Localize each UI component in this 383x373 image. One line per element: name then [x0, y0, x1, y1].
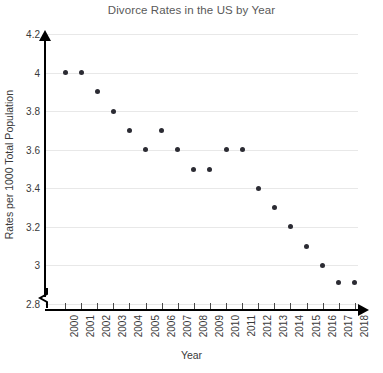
- data-point: [224, 147, 229, 152]
- data-point: [191, 167, 196, 172]
- x-axis-tick-label: 2002: [101, 315, 112, 337]
- y-axis-tick-label: 3: [34, 260, 40, 271]
- x-axis-tick: [355, 303, 356, 309]
- y-axis-title: Rates per 1000 Total Population: [3, 90, 15, 239]
- x-axis-tick: [307, 303, 308, 309]
- data-point: [159, 128, 164, 133]
- x-axis-tick: [113, 303, 114, 309]
- data-point: [79, 70, 84, 75]
- x-axis-tick-label: 2016: [327, 315, 338, 337]
- gridline: [45, 265, 358, 266]
- x-axis-tick: [65, 303, 66, 309]
- y-axis-tick-label: 4.2: [26, 29, 40, 40]
- data-point: [320, 263, 325, 268]
- data-point: [63, 70, 68, 75]
- x-axis-tick-label: 2007: [182, 315, 193, 337]
- x-axis-tick-label: 2003: [117, 315, 128, 337]
- x-axis-tick: [194, 303, 195, 309]
- gridline: [45, 150, 358, 151]
- x-axis-tick-label: 2001: [85, 315, 96, 337]
- y-axis-arrow-icon: [39, 30, 51, 41]
- x-axis-tick: [290, 303, 291, 309]
- gridline: [45, 227, 358, 228]
- x-axis-tick-label: 2017: [343, 315, 354, 337]
- gridline: [45, 34, 358, 35]
- data-point: [111, 109, 116, 114]
- x-axis-tick-label: 2008: [198, 315, 209, 337]
- y-axis-break-icon: [38, 288, 54, 308]
- x-axis-tick-label: 2006: [166, 315, 177, 337]
- gridline: [45, 111, 358, 112]
- x-axis-tick-label: 2014: [294, 315, 305, 337]
- x-axis-tick: [81, 303, 82, 309]
- data-point: [288, 224, 293, 229]
- data-point: [143, 147, 148, 152]
- gridline: [45, 73, 358, 74]
- x-axis-tick: [242, 303, 243, 309]
- x-axis-tick-label: 2000: [69, 315, 80, 337]
- x-axis-tick: [97, 303, 98, 309]
- x-axis-tick-label: 2004: [133, 315, 144, 337]
- data-point: [240, 147, 245, 152]
- x-axis-tick: [274, 303, 275, 309]
- x-axis-tick-label: 2005: [150, 315, 161, 337]
- data-point: [95, 89, 100, 94]
- y-axis-tick-label: 3.2: [26, 221, 40, 232]
- gridline: [45, 188, 358, 189]
- y-axis-line: [44, 40, 46, 297]
- x-axis-tick: [162, 303, 163, 309]
- y-axis-tick-label: 3.6: [26, 144, 40, 155]
- divorce-rates-scatter-chart: Divorce Rates in the US by Year 2.833.23…: [0, 0, 383, 373]
- chart-title: Divorce Rates in the US by Year: [0, 4, 383, 16]
- x-axis-tick: [129, 303, 130, 309]
- x-axis-tick-label: 2013: [278, 315, 289, 337]
- x-axis-tick-label: 2012: [262, 315, 273, 337]
- data-point: [336, 280, 341, 285]
- x-axis-tick: [178, 303, 179, 309]
- x-axis-tick: [258, 303, 259, 309]
- data-point: [352, 280, 357, 285]
- data-point: [256, 186, 261, 191]
- data-point: [272, 205, 277, 210]
- y-axis-tick-label: 3.8: [26, 106, 40, 117]
- x-axis-tick-label: 2009: [214, 315, 225, 337]
- data-point: [127, 128, 132, 133]
- x-axis-tick: [226, 303, 227, 309]
- data-point: [207, 167, 212, 172]
- x-axis-title: Year: [0, 349, 383, 361]
- gridline: [45, 304, 358, 305]
- data-point: [304, 244, 309, 249]
- x-axis-tick-label: 2015: [311, 315, 322, 337]
- x-axis-tick: [339, 303, 340, 309]
- x-axis-tick: [323, 303, 324, 309]
- x-axis-line: [45, 309, 360, 311]
- y-axis-tick-label: 3.4: [26, 183, 40, 194]
- data-point: [175, 147, 180, 152]
- plot-area: 2.833.23.43.63.844.2: [45, 34, 358, 304]
- x-axis-tick-label: 2018: [359, 315, 370, 337]
- y-axis-tick-label: 4: [34, 67, 40, 78]
- x-axis-tick: [146, 303, 147, 309]
- x-axis-tick-label: 2011: [246, 315, 257, 337]
- x-axis-tick: [210, 303, 211, 309]
- x-axis-tick-label: 2010: [230, 315, 241, 337]
